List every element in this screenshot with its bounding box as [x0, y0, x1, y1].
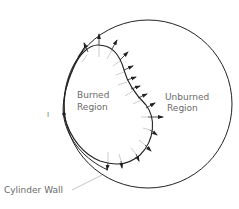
flame-propagation-diagram: I Burned Region Unburned Region Cylinder… [0, 0, 239, 209]
burned-region-label-line2: Region [77, 102, 108, 112]
unburned-region-label-line2: Region [167, 103, 198, 113]
ignition-label: I [47, 111, 49, 119]
burned-region-label-line1: Burned [77, 90, 109, 100]
unburned-region-label-line1: Unburned [165, 92, 209, 102]
cylinder-wall-leader [72, 175, 102, 190]
cylinder-wall-label: Cylinder Wall [4, 185, 63, 195]
ignition-point [62, 112, 66, 116]
